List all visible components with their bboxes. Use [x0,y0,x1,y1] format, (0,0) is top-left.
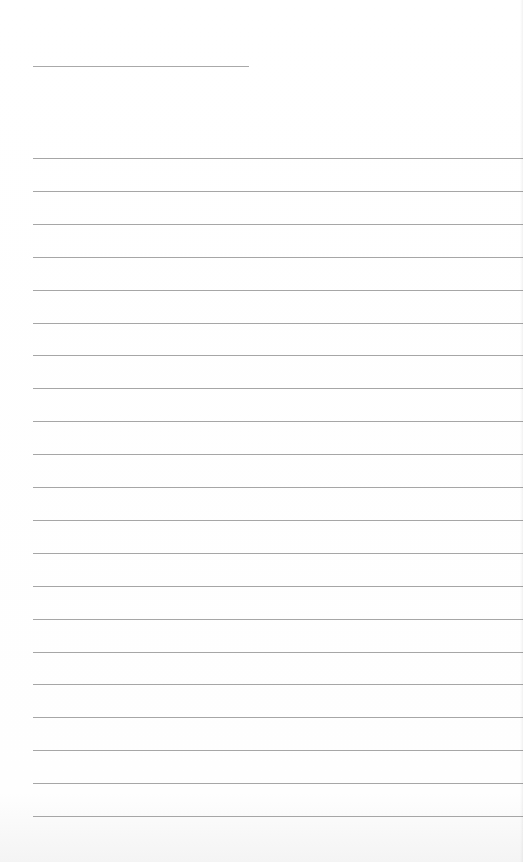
ruled-line [33,421,523,422]
ruled-line [33,224,523,225]
ruled-line [33,158,523,159]
ruled-line [33,717,523,718]
title-underline [33,66,249,67]
ruled-line [33,388,523,389]
ruled-line [33,487,523,488]
ruled-line [33,191,523,192]
ruled-line [33,816,523,817]
ruled-line [33,783,523,784]
ruled-line [33,454,523,455]
lined-paper-sheet [0,0,523,862]
ruled-line [33,290,523,291]
ruled-line [33,750,523,751]
ruled-line [33,684,523,685]
ruled-line [33,553,523,554]
ruled-line [33,619,523,620]
ruled-line [33,257,523,258]
ruled-line [33,520,523,521]
ruled-line [33,652,523,653]
ruled-line [33,586,523,587]
ruled-line [33,323,523,324]
ruled-line [33,355,523,356]
